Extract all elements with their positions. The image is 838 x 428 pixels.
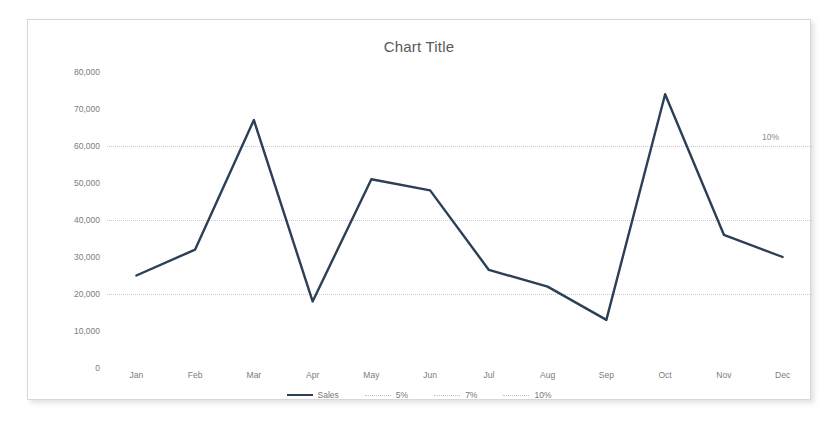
x-axis-tick: Jan bbox=[130, 370, 144, 380]
legend-item[interactable]: 5% bbox=[365, 390, 408, 400]
x-axis-tick: Jun bbox=[423, 370, 437, 380]
legend-label: 7% bbox=[465, 390, 477, 400]
legend-swatch-icon bbox=[503, 395, 529, 396]
series-polyline bbox=[136, 94, 782, 320]
chart-legend[interactable]: Sales5%7%10% bbox=[28, 390, 810, 400]
y-axis-tick: 30,000 bbox=[74, 252, 100, 262]
x-axis-tick: Feb bbox=[188, 370, 203, 380]
y-axis-tick: 50,000 bbox=[74, 178, 100, 188]
y-axis-tick: 80,000 bbox=[74, 67, 100, 77]
sales-series-line bbox=[107, 72, 812, 368]
x-axis-tick: Sep bbox=[599, 370, 614, 380]
legend-item[interactable]: 7% bbox=[434, 390, 477, 400]
x-axis-tick: Aug bbox=[540, 370, 555, 380]
x-axis-tick: Oct bbox=[659, 370, 672, 380]
x-axis-tick: Apr bbox=[306, 370, 319, 380]
y-axis-tick: 20,000 bbox=[74, 289, 100, 299]
legend-label: 5% bbox=[396, 390, 408, 400]
y-axis-tick: 10,000 bbox=[74, 326, 100, 336]
legend-item[interactable]: Sales bbox=[287, 390, 339, 400]
chart-title: Chart Title bbox=[28, 38, 810, 55]
legend-label: Sales bbox=[318, 390, 339, 400]
legend-label: 10% bbox=[534, 390, 551, 400]
legend-item[interactable]: 10% bbox=[503, 390, 551, 400]
x-axis-tick-labels: JanFebMarAprMayJunJulAugSepOctNovDec bbox=[107, 370, 812, 388]
legend-swatch-icon bbox=[434, 395, 460, 396]
x-axis-tick: Jul bbox=[483, 370, 494, 380]
y-axis-tick: 40,000 bbox=[74, 215, 100, 225]
x-axis-tick: Nov bbox=[716, 370, 731, 380]
legend-swatch-icon bbox=[365, 395, 391, 396]
y-axis-tick-labels: 010,00020,00030,00040,00050,00060,00070,… bbox=[58, 72, 100, 368]
x-axis-tick: Dec bbox=[775, 370, 790, 380]
x-axis-tick: May bbox=[363, 370, 379, 380]
plot-area: 10% bbox=[107, 72, 812, 368]
y-axis-tick: 70,000 bbox=[74, 104, 100, 114]
y-axis-tick: 60,000 bbox=[74, 141, 100, 151]
legend-swatch-icon bbox=[287, 394, 313, 397]
y-axis-tick: 0 bbox=[95, 363, 100, 373]
x-axis-tick: Mar bbox=[247, 370, 262, 380]
chart-card[interactable]: Chart Title 010,00020,00030,00040,00050,… bbox=[27, 19, 811, 400]
